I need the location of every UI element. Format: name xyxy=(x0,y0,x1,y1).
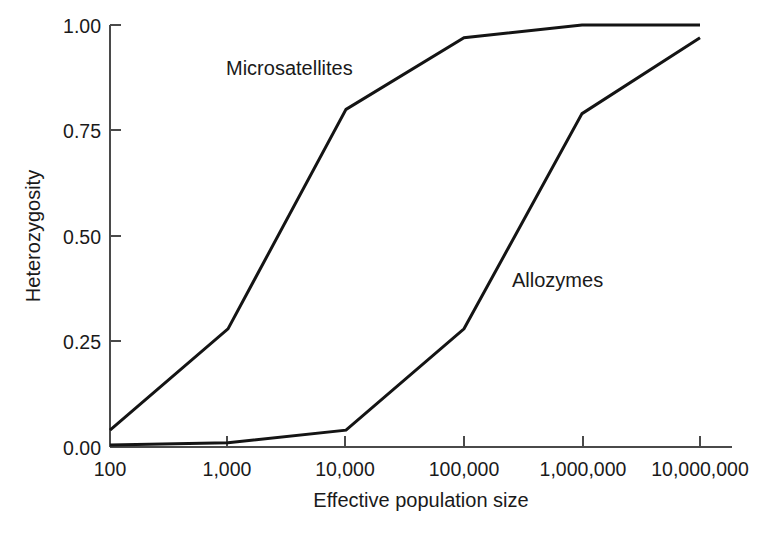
y-tick-label-0: 0.00 xyxy=(63,437,101,459)
y-tick-label-3: 0.75 xyxy=(63,120,101,142)
y-tick-label-4: 1.00 xyxy=(63,15,101,37)
x-tick-label-4: 1,000,000 xyxy=(540,458,627,480)
y-tick-label-1: 0.25 xyxy=(63,331,101,353)
x-tick-label-2: 10,000 xyxy=(315,458,375,480)
x-tick-label-1: 1,000 xyxy=(203,458,252,480)
x-tick-label-0: 100 xyxy=(94,458,127,480)
chart-figure: 1.00 0.75 0.50 0.25 0.00 100 1,000 10,00… xyxy=(0,0,774,539)
y-axis-title: Heterozygosity xyxy=(22,170,44,302)
series-line-microsatellites xyxy=(110,25,700,430)
x-axis-title: Effective population size xyxy=(313,489,528,511)
heterozygosity-line-chart: 1.00 0.75 0.50 0.25 0.00 100 1,000 10,00… xyxy=(0,0,774,539)
series-label-microsatellites: Microsatellites xyxy=(226,57,353,79)
y-tick-label-2: 0.50 xyxy=(63,226,101,248)
series-line-allozymes xyxy=(110,38,700,445)
series-label-allozymes: Allozymes xyxy=(512,269,603,291)
x-tick-label-3: 100,000 xyxy=(429,458,500,480)
x-tick-label-5: 10,000,000 xyxy=(651,458,749,480)
